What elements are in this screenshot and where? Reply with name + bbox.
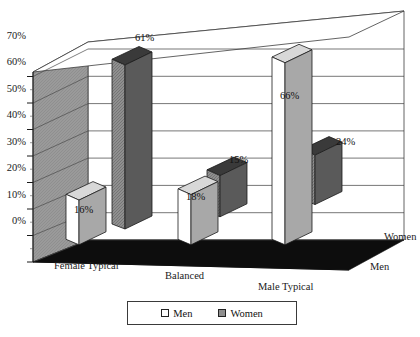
legend-swatch-women-icon bbox=[218, 309, 226, 317]
chart-legend: Men Women bbox=[127, 301, 297, 325]
y-tick-label: 40% bbox=[0, 110, 26, 121]
y-tick-label: 50% bbox=[0, 84, 26, 95]
y-tick-label: 10% bbox=[0, 190, 26, 201]
depth-label-women: Women bbox=[384, 232, 416, 243]
y-tick-label: 60% bbox=[0, 57, 26, 68]
legend-item-men[interactable]: Men bbox=[161, 308, 192, 319]
category-label-balanced: Balanced bbox=[165, 271, 204, 282]
y-tick-label: 30% bbox=[0, 137, 26, 148]
bar-men-male-typical[interactable] bbox=[272, 44, 312, 245]
data-label-men-female-typical: 16% bbox=[74, 205, 93, 216]
data-label-women-balanced: 15% bbox=[229, 155, 248, 166]
y-axis bbox=[27, 72, 33, 262]
legend-label-women: Women bbox=[230, 308, 262, 319]
y-tick-label: 20% bbox=[0, 163, 26, 174]
legend-label-men: Men bbox=[173, 308, 192, 319]
depth-label-men: Men bbox=[370, 262, 389, 273]
data-label-men-male-typical: 66% bbox=[280, 91, 299, 102]
figure-caption bbox=[4, 330, 416, 337]
category-label-female-typical: Female Typical bbox=[54, 261, 119, 272]
data-label-men-balanced: 18% bbox=[186, 192, 205, 203]
bar-men-balanced[interactable] bbox=[178, 176, 218, 245]
bar-chart-canvas bbox=[0, 0, 420, 337]
y-tick-label: 0% bbox=[0, 216, 26, 227]
data-label-women-male-typical: 24% bbox=[336, 137, 355, 148]
data-label-women-female-typical: 61% bbox=[135, 33, 154, 44]
legend-swatch-men-icon bbox=[161, 309, 169, 317]
legend-item-women[interactable]: Women bbox=[218, 308, 262, 319]
bar-women-female-typical[interactable] bbox=[112, 47, 152, 230]
category-label-male-typical: Male Typical bbox=[258, 282, 313, 293]
y-tick-label: 70% bbox=[0, 31, 26, 42]
